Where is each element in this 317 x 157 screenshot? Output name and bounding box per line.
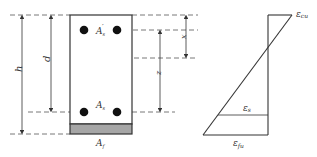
strain-diagonal <box>203 15 292 135</box>
d-label: d <box>41 56 52 62</box>
section-strain-diagram: h d x z As′ As Af εcu εs εfu <box>0 0 317 157</box>
tension-bar-left <box>80 108 89 117</box>
tension-bar-right <box>113 108 122 117</box>
h-label: h <box>13 66 24 72</box>
compression-bar-left <box>80 26 89 35</box>
eps-cu-label: εcu <box>296 9 308 19</box>
eps-s-label: εs <box>243 103 251 113</box>
compression-bar-right <box>113 26 122 35</box>
eps-fu-label: εfu <box>233 138 244 150</box>
z-label: z <box>154 70 163 76</box>
x-label: x <box>179 34 188 39</box>
frp-strip <box>70 124 132 134</box>
frp-label: Af <box>95 138 106 150</box>
strain-profile <box>203 15 292 135</box>
